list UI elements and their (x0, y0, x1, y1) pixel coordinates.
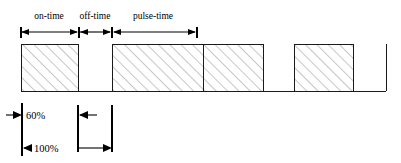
annotation-off-span-upper (79, 111, 97, 119)
arrow-head-off-span-upper (79, 111, 88, 119)
label-pulse-time: pulse-time (133, 11, 173, 21)
waveform (21, 44, 386, 91)
pulse-block-2 (112, 44, 203, 91)
arrow-head-duty-60 (13, 111, 22, 119)
top-dimension-labels: on-time off-time pulse-time (34, 11, 173, 21)
dimension-arrow-on-time (21, 27, 78, 38)
pulse-hatch-1 (21, 44, 78, 91)
arrow-head-right-pulse-time (188, 29, 196, 35)
annotation-duty-60: 60% (6, 110, 46, 121)
arrow-head-off-span-lower (103, 144, 112, 152)
arrow-head-left-pulse-time (113, 29, 121, 35)
pulse-hatch-2 (112, 44, 203, 91)
top-dimension-arrows (21, 27, 197, 38)
pulse-block-1 (21, 44, 78, 91)
annotation-off-span-lower (79, 144, 112, 152)
arrow-head-left-on-time (21, 29, 29, 35)
arrow-head-left-off-time (80, 29, 88, 35)
arrow-head-right-off-time (103, 29, 111, 35)
dimension-arrow-pulse-time (113, 27, 197, 38)
dimension-arrow-off-time (79, 27, 112, 38)
pulse-timing-diagram: on-time off-time pulse-time (0, 0, 401, 163)
arrow-head-duty-100 (23, 144, 32, 152)
label-duty-100: 100% (34, 143, 59, 154)
annotation-duty-100: 100% (23, 143, 59, 154)
pulse-hatch-4 (294, 44, 353, 91)
diagram-canvas: on-time off-time pulse-time (0, 0, 401, 163)
label-duty-60: 60% (26, 110, 46, 121)
arrow-head-right-on-time (70, 29, 78, 35)
pulse-block-4 (294, 44, 353, 91)
label-off-time: off-time (80, 11, 111, 21)
label-on-time: on-time (34, 11, 64, 21)
pulse-block-3 (203, 44, 263, 91)
pulse-hatch-3 (203, 44, 263, 91)
